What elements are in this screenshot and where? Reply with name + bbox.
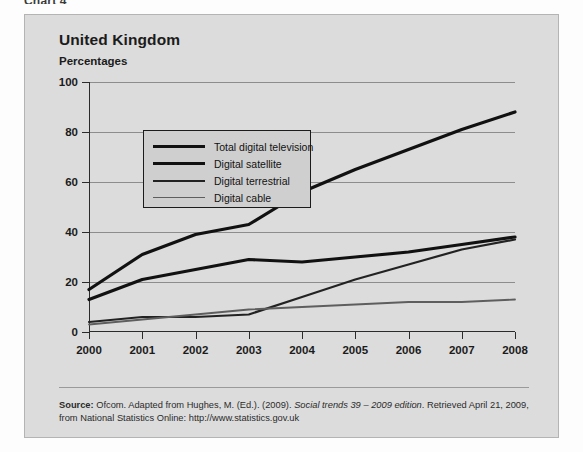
y-tick-label: 80: [65, 126, 78, 138]
top-caption: Chart 4: [24, 0, 67, 4]
legend-swatch-total-digital-television: [153, 145, 205, 148]
x-tick-label: 2006: [396, 344, 422, 356]
y-tick-label: 0: [72, 326, 78, 338]
x-tick-label: 2003: [236, 344, 262, 356]
series-line-digital-satellite: [89, 237, 515, 300]
page-root: Chart 4 United Kingdom Percentages 02040…: [0, 0, 583, 452]
chart-panel: United Kingdom Percentages 020406080100 …: [24, 14, 559, 438]
legend-swatch-digital-cable: [153, 197, 205, 198]
x-tick: [142, 332, 143, 339]
source-note: Source: Ofcom. Adapted from Hughes, M. (…: [59, 399, 531, 425]
legend-swatch-digital-satellite: [153, 162, 205, 165]
legend-label-digital-terrestrial: Digital terrestrial: [214, 175, 290, 187]
x-tick-label: 2000: [76, 344, 102, 356]
legend-label-digital-satellite: Digital satellite: [214, 158, 282, 170]
legend-label-total-digital-television: Total digital television: [214, 141, 313, 153]
x-tick: [196, 332, 197, 339]
y-tick: [82, 332, 89, 333]
source-label: Source:: [59, 400, 94, 410]
y-tick-label: 20: [65, 276, 78, 288]
legend-swatch-digital-terrestrial: [153, 180, 205, 182]
x-tick: [249, 332, 250, 339]
x-tick-label: 2001: [129, 344, 155, 356]
y-tick: [82, 82, 89, 83]
source-divider: [59, 387, 529, 388]
legend-item-digital-satellite: Digital satellite: [153, 155, 310, 172]
legend-item-digital-terrestrial: Digital terrestrial: [153, 172, 310, 189]
chart-subtitle: Percentages: [59, 55, 127, 67]
series-line-digital-cable: [89, 300, 515, 325]
y-tick-label: 60: [65, 176, 78, 188]
y-tick: [82, 132, 89, 133]
legend-item-total-digital-television: Total digital television: [153, 138, 310, 155]
y-tick: [82, 232, 89, 233]
x-tick: [515, 332, 516, 339]
source-italic-title: Social trends 39 – 2009 edition: [294, 400, 422, 410]
y-tick-label: 40: [65, 226, 78, 238]
x-tick: [89, 332, 90, 339]
x-tick-label: 2002: [183, 344, 209, 356]
legend-label-digital-cable: Digital cable: [214, 192, 271, 204]
x-tick-label: 2004: [289, 344, 315, 356]
legend-item-digital-cable: Digital cable: [153, 189, 310, 206]
source-text-3: Statistics Online: http://www.statistics…: [117, 413, 299, 423]
source-text-1: Ofcom. Adapted from Hughes, M. (Ed.). (2…: [96, 400, 294, 410]
y-tick: [82, 282, 89, 283]
x-tick-label: 2007: [449, 344, 475, 356]
x-tick-label: 2005: [342, 344, 368, 356]
x-tick: [302, 332, 303, 339]
y-tick: [82, 182, 89, 183]
x-tick: [409, 332, 410, 339]
chart-title: United Kingdom: [59, 31, 180, 49]
y-tick-label: 100: [59, 76, 78, 88]
x-tick: [462, 332, 463, 339]
x-tick: [355, 332, 356, 339]
x-tick-label: 2008: [502, 344, 528, 356]
chart-legend: Total digital television Digital satelli…: [143, 130, 311, 208]
